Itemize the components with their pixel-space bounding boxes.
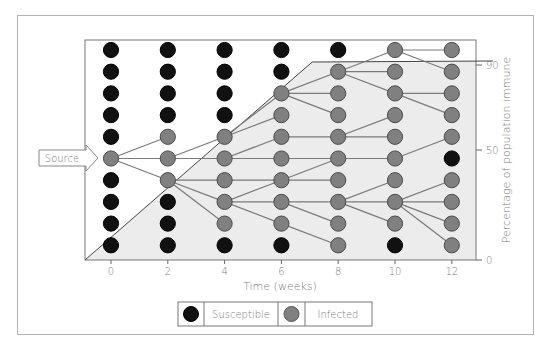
infected-node bbox=[387, 173, 402, 188]
x-tick-label: 10 bbox=[389, 266, 402, 277]
infected-node bbox=[387, 64, 402, 79]
infected-node bbox=[387, 194, 402, 209]
x-tick-label: 6 bbox=[278, 266, 284, 277]
transmission-edge bbox=[111, 137, 168, 159]
infected-node bbox=[387, 42, 402, 57]
susceptible-node bbox=[103, 173, 118, 188]
infected-node bbox=[444, 216, 459, 231]
infected-node bbox=[160, 151, 175, 166]
susceptible-node bbox=[331, 42, 346, 57]
susceptible-node bbox=[103, 108, 118, 123]
infected-node bbox=[217, 194, 232, 209]
infected-node bbox=[217, 129, 232, 144]
y-tick-label: 0 bbox=[486, 255, 492, 266]
susceptible-node bbox=[160, 238, 175, 253]
susceptible-node bbox=[103, 86, 118, 101]
infected-node bbox=[387, 151, 402, 166]
infected-node bbox=[274, 216, 289, 231]
susceptible-node bbox=[274, 238, 289, 253]
infected-swatch-icon bbox=[284, 307, 299, 322]
infected-node bbox=[331, 173, 346, 188]
legend-susceptible-label: Susceptible bbox=[212, 309, 270, 320]
infected-node bbox=[331, 108, 346, 123]
infected-node bbox=[217, 151, 232, 166]
susceptible-node bbox=[103, 238, 118, 253]
y-tick-label: 90 bbox=[486, 60, 499, 71]
x-tick-label: 8 bbox=[335, 266, 341, 277]
infected-node bbox=[444, 173, 459, 188]
x-tick-label: 0 bbox=[108, 266, 114, 277]
infected-node bbox=[274, 151, 289, 166]
infected-node bbox=[444, 194, 459, 209]
susceptible-node bbox=[217, 64, 232, 79]
legend-infected-label: Infected bbox=[318, 309, 359, 320]
infected-node bbox=[331, 216, 346, 231]
infected-node bbox=[444, 108, 459, 123]
x-tick-label: 2 bbox=[165, 266, 171, 277]
susceptible-node bbox=[160, 64, 175, 79]
infected-node bbox=[274, 86, 289, 101]
infected-node bbox=[331, 151, 346, 166]
susceptible-node bbox=[103, 42, 118, 57]
susceptible-node bbox=[160, 194, 175, 209]
infected-node bbox=[217, 216, 232, 231]
susceptible-node bbox=[103, 64, 118, 79]
susceptible-node bbox=[160, 42, 175, 57]
susceptible-node bbox=[217, 108, 232, 123]
legend: Susceptible Infected bbox=[178, 302, 372, 326]
infected-node bbox=[444, 42, 459, 57]
susceptible-node bbox=[160, 86, 175, 101]
source-label: Source bbox=[45, 153, 79, 164]
infected-node bbox=[103, 151, 118, 166]
infected-node bbox=[331, 86, 346, 101]
susceptible-node bbox=[103, 129, 118, 144]
x-axis-ticks: 024681012 bbox=[108, 260, 458, 277]
infected-node bbox=[217, 173, 232, 188]
infected-node bbox=[160, 129, 175, 144]
transmission-edge bbox=[111, 159, 168, 181]
y-axis-label: Percentage of population immune bbox=[500, 57, 513, 243]
infected-node bbox=[444, 86, 459, 101]
infected-node bbox=[444, 64, 459, 79]
epidemic-spread-diagram: 024681012 90500 Time (weeks) Percentage … bbox=[0, 0, 559, 356]
y-tick-label: 50 bbox=[486, 145, 499, 156]
susceptible-node bbox=[217, 42, 232, 57]
infected-node bbox=[387, 108, 402, 123]
x-axis-label: Time (weeks) bbox=[243, 280, 317, 293]
susceptible-node bbox=[103, 216, 118, 231]
infected-node bbox=[160, 173, 175, 188]
infected-node bbox=[444, 129, 459, 144]
source-arrow: Source bbox=[39, 145, 98, 171]
susceptible-node bbox=[274, 42, 289, 57]
susceptible-node bbox=[274, 64, 289, 79]
susceptible-node bbox=[103, 194, 118, 209]
infected-node bbox=[274, 194, 289, 209]
susceptible-node bbox=[160, 108, 175, 123]
infected-node bbox=[274, 108, 289, 123]
susceptible-node bbox=[387, 238, 402, 253]
infected-node bbox=[274, 173, 289, 188]
susceptible-swatch-icon bbox=[184, 307, 199, 322]
x-tick-label: 12 bbox=[445, 266, 458, 277]
infected-node bbox=[387, 129, 402, 144]
infected-node bbox=[331, 64, 346, 79]
susceptible-node bbox=[217, 238, 232, 253]
susceptible-node bbox=[444, 151, 459, 166]
infected-node bbox=[387, 86, 402, 101]
infected-node bbox=[387, 216, 402, 231]
y-axis-ticks: 90500 bbox=[476, 60, 499, 266]
infected-node bbox=[331, 129, 346, 144]
infected-node bbox=[444, 238, 459, 253]
infected-node bbox=[331, 194, 346, 209]
infected-node bbox=[274, 129, 289, 144]
x-tick-label: 4 bbox=[221, 266, 227, 277]
susceptible-node bbox=[217, 86, 232, 101]
susceptible-node bbox=[160, 216, 175, 231]
infected-node bbox=[331, 238, 346, 253]
